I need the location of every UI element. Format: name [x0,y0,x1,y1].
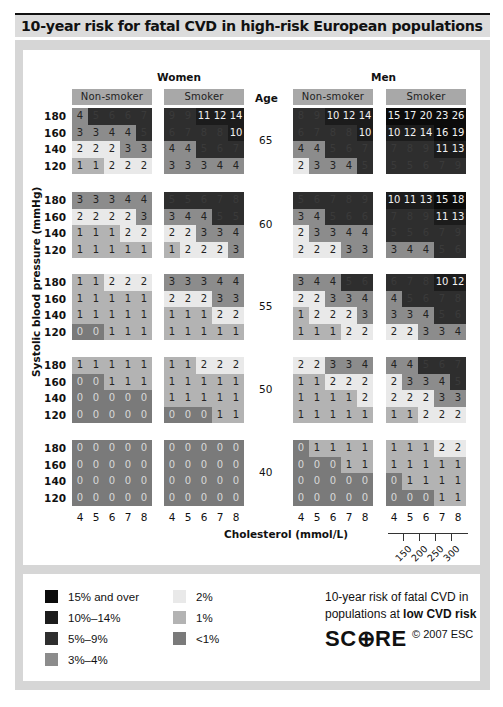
risk-cell: 1 [357,440,373,457]
risk-cell: 2 [357,324,373,341]
risk-note: 10-year risk of fatal CVD in populations… [325,589,476,623]
risk-cell: 0 [72,440,88,457]
risk-cell: 3 [293,274,309,291]
risk-cell: 4 [341,158,357,175]
risk-cell: 0 [293,473,309,490]
risk-cell: 3 [136,209,152,226]
risk-cell: 5 [228,209,244,226]
risk-cell: 4 [228,274,244,291]
risk-cell: 2 [196,291,212,308]
risk-cell: 0 [88,324,104,341]
risk-cell: 2 [104,141,120,158]
risk-cell: 0 [228,457,244,474]
risk-cell: 0 [88,490,104,507]
risk-cell: 1 [325,440,341,457]
men-smoker-grid-age-65: 15172023261012141619789111355679 [386,108,466,174]
risk-cell: 3 [434,324,450,341]
men-smoker-header: Smoker [386,89,466,105]
risk-cell: 1 [104,374,120,391]
risk-cell: 0 [325,490,341,507]
risk-cell: 6 [434,357,450,374]
risk-cell: 3 [357,242,373,259]
risk-cell: 1 [418,440,434,457]
risk-cell: 0 [212,490,228,507]
risk-cell: 1 [136,357,152,374]
risk-cell: 1 [120,307,136,324]
age-label: 40 [259,466,272,478]
cholesterol-tick: 8 [136,511,152,523]
risk-cell: 11 [402,192,418,209]
age-label: 65 [259,134,272,146]
cholesterol-tick: 5 [88,511,104,523]
risk-cell: 1 [72,242,88,259]
women-smoker-grid-age-65: 991112146788104456733344 [164,108,244,174]
sbp-label: 160 [42,211,66,223]
risk-cell: 9 [450,158,466,175]
legend-item-15-plus: 15% and over [45,590,139,603]
risk-cell: 11 [434,209,450,226]
sbp-label: 140 [42,227,66,239]
risk-cell: 6 [120,108,136,125]
risk-cell: 1 [228,374,244,391]
risk-cell: 2 [120,274,136,291]
note-bold: low CVD risk [403,607,476,621]
risk-cell: 6 [418,291,434,308]
risk-cell: 1 [386,457,402,474]
risk-cell: 1 [196,324,212,341]
legend-swatch [45,611,58,624]
risk-cell: 6 [357,209,373,226]
cholesterol-tick: 7 [341,511,357,523]
risk-cell: 4 [180,209,196,226]
risk-cell: 2 [450,440,466,457]
risk-cell: 1 [402,473,418,490]
risk-cell: 4 [180,141,196,158]
risk-cell: 14 [418,125,434,142]
risk-cell: 9 [164,108,180,125]
risk-cell: 12 [450,274,466,291]
legend-item-5-9: 5%–9% [45,632,108,645]
risk-cell: 0 [164,473,180,490]
risk-cell: 7 [180,125,196,142]
sbp-label: 180 [42,276,66,288]
risk-cell: 8 [418,274,434,291]
risk-cell: 3 [341,242,357,259]
cholesterol-tick: 6 [104,511,120,523]
risk-cell: 3 [325,225,341,242]
risk-cell: 4 [402,357,418,374]
risk-cell: 0 [136,457,152,474]
risk-cell: 1 [72,225,88,242]
risk-cell: 5 [180,192,196,209]
risk-cell: 2 [164,291,180,308]
risk-cell: 9 [357,192,373,209]
risk-cell: 0 [180,440,196,457]
risk-cell: 2 [325,374,341,391]
legend-label: 1% [196,612,213,624]
risk-cell: 0 [325,473,341,490]
risk-cell: 3 [164,158,180,175]
risk-cell: 1 [309,374,325,391]
risk-cell: 2 [196,242,212,259]
cholesterol-tick: 6 [325,511,341,523]
risk-cell: 0 [72,407,88,424]
risk-cell: 0 [104,457,120,474]
risk-cell: 1 [164,324,180,341]
risk-cell: 9 [418,209,434,226]
women-non-smoker-grid-age-50: 11111001110000000000 [72,357,152,423]
risk-cell: 2 [104,158,120,175]
legend-item-3-4: 3%–4% [45,653,108,666]
risk-cell: 6 [450,242,466,259]
men-smoker-grid-age-60: 101113151878911135567934456 [386,192,466,258]
risk-cell: 4 [212,158,228,175]
women-smoker-grid-age-60: 55678344552233412223 [164,192,244,258]
sbp-label: 160 [42,293,66,305]
risk-cell: 1 [120,242,136,259]
risk-cell: 1 [164,307,180,324]
risk-cell: 1 [418,457,434,474]
risk-cell: 2 [386,374,402,391]
women-smoker-grid-age-55: 33344222331112211111 [164,274,244,340]
risk-cell: 0 [88,440,104,457]
risk-cell: 3 [293,209,309,226]
risk-cell: 1 [212,324,228,341]
men-smoker-grid-age-40: 11122111110111100011 [386,440,466,506]
risk-cell: 1 [72,291,88,308]
